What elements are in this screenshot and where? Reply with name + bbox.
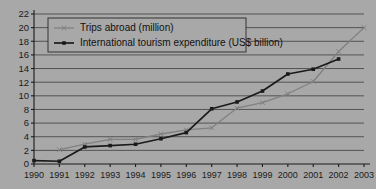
x-axis-tick-label: 1994 [126,170,146,180]
x-axis-tick-label: 1997 [202,170,222,180]
x-axis-tick-label: 2001 [303,170,323,180]
y-axis-tick-label: 0 [24,158,29,169]
x-axis-tick-label: 2003 [354,170,374,180]
x-axis-tick-label: 1995 [151,170,171,180]
legend: Trips abroad (million)International tour… [48,18,283,52]
chart-canvas: 0246810121416182022199019911992199319941… [0,0,376,189]
x-axis-tick-label: 1996 [176,170,196,180]
data-series-2 [32,57,340,163]
x-axis: 1990199119921993199419951996199719981999… [24,164,374,180]
data-point-marker [261,89,265,93]
y-axis-tick-label: 8 [24,104,29,115]
x-axis-tick-label: 2002 [329,170,349,180]
y-axis-tick-label: 6 [24,117,29,128]
data-point-marker [311,67,315,71]
legend-item-2: International tourism expenditure (US$ b… [54,37,283,48]
data-point-marker [32,159,36,163]
data-point-marker [134,142,138,146]
data-point-marker [58,159,62,163]
line-chart: 0246810121416182022199019911992199319941… [0,0,376,189]
data-point-marker [336,49,341,54]
y-axis-tick-label: 14 [18,63,29,74]
data-point-marker [311,79,316,84]
data-point-marker [83,145,87,149]
x-axis-tick-label: 2000 [278,170,298,180]
data-point-marker [62,41,66,45]
data-point-marker [235,100,239,104]
x-axis-tick-label: 1990 [24,170,44,180]
data-point-marker [337,57,341,61]
data-point-marker [286,72,290,76]
data-point-marker [210,107,214,111]
y-axis-tick-label: 18 [18,36,29,47]
x-axis-tick-label: 1991 [49,170,69,180]
y-axis-tick-label: 16 [18,49,29,60]
x-axis-tick-label: 1999 [252,170,272,180]
y-axis-tick-label: 20 [18,22,29,33]
legend-item-label: International tourism expenditure (US$ b… [80,37,283,48]
legend-item-label: Trips abroad (million) [80,22,174,33]
x-axis-tick-label: 1998 [227,170,247,180]
x-axis-tick-label: 1992 [75,170,95,180]
y-axis: 0246810121416182022 [18,8,34,169]
y-axis-tick-label: 12 [18,77,29,88]
y-axis-tick-label: 22 [18,8,29,19]
y-axis-tick-label: 2 [24,145,29,156]
data-point-marker [108,144,112,148]
data-point-marker [159,137,163,141]
data-point-marker [185,131,189,135]
y-axis-tick-label: 10 [18,90,29,101]
x-axis-tick-label: 1993 [100,170,120,180]
y-axis-tick-label: 4 [24,131,29,142]
